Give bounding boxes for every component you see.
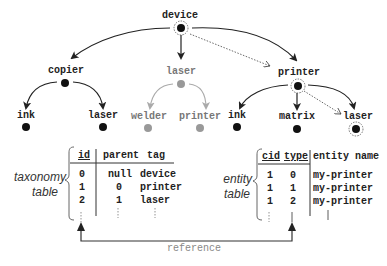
taxonomy-cell: printer [140,182,182,193]
entity-cell: 1 [267,170,273,181]
entity-header-cid: cid [262,151,280,162]
taxonomy-cell: 1 [79,182,85,193]
node-printer-dot [291,79,305,93]
node-label-welder: welder [131,111,167,122]
edge-device-printer-dotted [190,34,270,66]
reference-label: reference [167,243,221,254]
edge-laser-printer [189,84,206,108]
node-label-ink-left: ink [17,110,35,121]
edge-laser-welder [150,84,173,108]
edge-device-copier [72,28,170,58]
entity-cell: my-printer [313,196,373,207]
node-printer-mid-dot [196,124,204,132]
edge-printer-ink [240,85,288,108]
taxonomy-cell: 0 [116,182,122,193]
node-label-printer: printer [278,67,320,78]
entity-cell: my-printer [313,183,373,194]
taxonomy-brace [65,147,74,220]
node-matrix-dot [293,125,301,133]
taxonomy-header-id: id [78,150,90,161]
edge-copier-ink [26,82,57,108]
taxonomy-cell: 0 [79,169,85,180]
node-label-device: device [162,10,198,21]
entity-cell: 0 [290,170,296,181]
diagram-canvas [0,0,387,266]
taxonomy-caption: taxonomy table [10,170,66,200]
edge-printer-laser [308,85,354,108]
node-laser-right-dot [349,122,363,136]
reference-arrow [81,225,292,241]
taxonomy-header-tag: tag [147,150,165,161]
taxonomy-cell: 2 [79,195,85,206]
node-device-dot [174,21,188,35]
node-label-copier: copier [48,65,84,76]
taxonomy-cell: laser [140,195,170,206]
entity-cell: 1 [267,183,273,194]
node-laser-mid-dot [177,80,185,88]
node-label-ink-right: ink [228,110,246,121]
node-copier-dot [61,79,69,87]
node-label-laser-mid: laser [166,66,196,77]
edge-device-printer [192,28,296,60]
node-welder-dot [144,124,152,132]
entity-header-entity-name: entity name [313,151,379,162]
edge-copier-laser [73,82,103,108]
node-label-matrix: matrix [279,111,315,122]
node-laser-left-dot [99,123,107,131]
entity-caption: entity table [196,172,252,202]
node-ink-left-dot [22,123,30,131]
taxonomy-cell: 1 [116,195,122,206]
entity-cell: 1 [267,196,273,207]
taxonomy-cell: null [108,169,132,180]
entity-cell: 1 [290,183,296,194]
taxonomy-cell: device [140,169,176,180]
node-ink-right-dot [233,123,241,131]
node-label-laser-right: laser [343,111,373,122]
node-label-printer-mid: printer [179,111,221,122]
node-label-laser-left: laser [88,110,118,121]
taxonomy-header-parent: parent [103,150,139,161]
entity-cell: my-printer [313,170,373,181]
entity-header-type: type [284,151,308,162]
entity-cell: 2 [290,196,296,207]
entity-brace [253,149,262,220]
